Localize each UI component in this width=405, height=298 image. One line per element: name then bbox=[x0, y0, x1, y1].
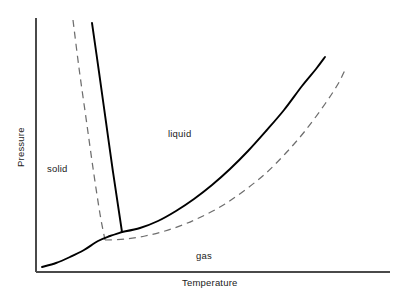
metastable-vaporization-curve bbox=[105, 70, 345, 240]
solid-curves-group bbox=[42, 23, 325, 267]
region-label-gas: gas bbox=[196, 250, 212, 261]
vaporization-curve bbox=[122, 57, 325, 232]
region-label-solid: solid bbox=[47, 163, 68, 174]
axis-titles-group: Temperature Pressure bbox=[15, 127, 238, 288]
region-labels-group: solid liquid gas bbox=[47, 128, 212, 261]
phase-diagram-figure: solid liquid gas Temperature Pressure bbox=[0, 0, 405, 298]
metastable-fusion-curve bbox=[73, 20, 105, 240]
x-axis-title: Temperature bbox=[182, 277, 238, 288]
y-axis-title: Pressure bbox=[15, 127, 26, 167]
phase-diagram-plot: solid liquid gas Temperature Pressure bbox=[0, 0, 405, 298]
sublimation-curve bbox=[42, 232, 122, 267]
fusion-curve bbox=[92, 23, 122, 232]
region-label-liquid: liquid bbox=[168, 128, 191, 139]
axes-group bbox=[36, 18, 390, 272]
dashed-curves-group bbox=[73, 20, 345, 240]
